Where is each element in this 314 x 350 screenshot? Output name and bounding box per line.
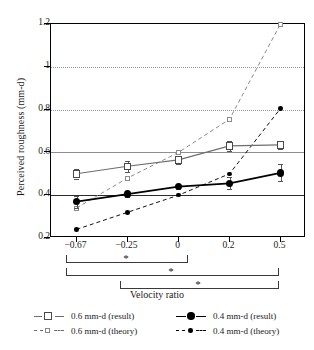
data-point-06-theory (227, 117, 232, 122)
error-bar-cap (74, 208, 79, 209)
y-axis-title: Perceived roughness (mm-d) (15, 78, 26, 196)
legend-marker-open-square-small (34, 325, 64, 337)
x-tick-label: 0.2 (206, 240, 252, 250)
line-06-theory (77, 24, 281, 208)
data-point-06-result (226, 142, 234, 150)
data-point-06-theory (176, 150, 181, 155)
plot-area (50, 23, 305, 237)
error-bar-cap (125, 172, 130, 173)
error-bar-cap (278, 181, 283, 182)
error-bar-cap (227, 177, 232, 178)
data-point-06-result (175, 156, 183, 164)
legend-label: 0.6 mm-d (theory) (71, 324, 137, 339)
legend-item-04-theory: 0.4 mm-d (theory) (176, 324, 279, 339)
chart-figure: Perceived roughness (mm-d) 1.2 1 0.8 0.6… (0, 0, 314, 350)
data-point-04-result (277, 169, 285, 177)
legend-label: 0.6 mm-d (result) (71, 309, 134, 324)
error-bar-cap (176, 164, 181, 165)
legend-label: 0.4 mm-d (result) (213, 309, 276, 324)
data-point-04-theory (278, 106, 283, 111)
legend-marker-filled-circle-large (176, 310, 206, 322)
error-bar-cap (74, 179, 79, 180)
significance-star: * (164, 266, 178, 277)
data-point-04-theory (74, 227, 79, 232)
significance-star: * (119, 253, 133, 264)
y-tick-mark (44, 237, 50, 238)
x-tick-label: −0.25 (104, 240, 150, 250)
x-axis-title: Velocity ratio (0, 289, 314, 300)
data-point-06-theory (278, 22, 283, 27)
error-bar-cap (278, 149, 283, 150)
legend-marker-filled-circle-small (176, 325, 206, 337)
legend-marker-open-square-large (34, 310, 64, 322)
data-point-06-theory (125, 176, 130, 181)
data-point-04-theory (125, 210, 130, 215)
legend-item-06-result: 0.6 mm-d (result) (34, 309, 134, 324)
data-point-06-result (73, 170, 81, 178)
legend-label: 0.4 mm-d (theory) (213, 324, 279, 339)
data-point-06-result (124, 163, 132, 171)
error-bar-cap (227, 151, 232, 152)
legend-item-06-theory: 0.6 mm-d (theory) (34, 324, 137, 339)
data-point-04-theory (227, 172, 232, 177)
error-bar-cap (227, 189, 232, 190)
data-point-06-result (277, 141, 285, 149)
series-lines (51, 24, 306, 238)
error-bar-cap (278, 164, 283, 165)
x-tick-label: 0 (155, 240, 201, 250)
legend-item-04-result: 0.4 mm-d (result) (176, 309, 276, 324)
x-tick-label: 0.5 (257, 240, 303, 250)
x-tick-label: −0.67 (53, 240, 99, 250)
error-bar-cap (74, 196, 79, 197)
